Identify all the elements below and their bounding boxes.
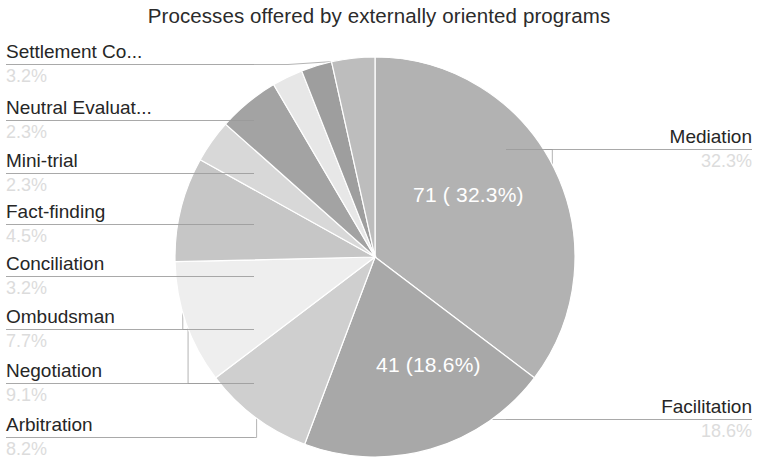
callout-category: Mediation (506, 126, 752, 148)
callout-percent: 9.1% (6, 385, 254, 406)
callout-mini-trial[interactable]: Mini-trial 2.3% (6, 150, 254, 196)
callout-rule (6, 383, 254, 384)
callout-percent: 8.2% (6, 439, 254, 460)
callout-fact-finding[interactable]: Fact-finding 4.5% (6, 201, 254, 247)
callout-facilitation[interactable]: Facilitation 18.6% (506, 396, 752, 442)
callout-percent: 18.6% (506, 421, 752, 442)
callout-percent: 4.5% (6, 226, 254, 247)
callout-percent: 3.2% (6, 278, 254, 299)
callout-neutral-evaluation[interactable]: Neutral Evaluat... 2.3% (6, 97, 254, 143)
callout-category: Fact-finding (6, 201, 254, 223)
callout-percent: 2.3% (6, 175, 254, 196)
callout-category: Negotiation (6, 360, 254, 382)
callout-conciliation[interactable]: Conciliation 3.2% (6, 253, 254, 299)
callout-rule (6, 329, 254, 330)
callout-rule (506, 419, 752, 420)
callout-percent: 2.3% (6, 122, 254, 143)
callout-percent: 7.7% (6, 331, 254, 352)
callout-category: Arbitration (6, 414, 254, 436)
callout-rule (6, 437, 254, 438)
callout-category: Neutral Evaluat... (6, 97, 254, 119)
leader-line (254, 416, 257, 438)
callout-rule (506, 149, 752, 150)
callout-percent: 3.2% (6, 66, 254, 87)
callout-category: Conciliation (6, 253, 254, 275)
callout-ombudsman[interactable]: Ombudsman 7.7% (6, 306, 254, 352)
callout-percent: 32.3% (506, 151, 752, 172)
callout-rule (6, 224, 254, 225)
callout-rule (6, 276, 254, 277)
callout-rule (6, 173, 254, 174)
chart-canvas: Processes offered by externally oriented… (0, 0, 758, 465)
callout-rule (6, 120, 254, 121)
slice-value-facilitation: 41 (18.6%) (376, 353, 481, 377)
slice-value-mediation: 71 ( 32.3%) (413, 183, 524, 207)
callout-arbitration[interactable]: Arbitration 8.2% (6, 414, 254, 460)
callout-rule (6, 64, 254, 65)
callout-mediation[interactable]: Mediation 32.3% (506, 126, 752, 172)
callout-category: Settlement Co... (6, 41, 254, 63)
callout-settlement-conference[interactable]: Settlement Co... 3.2% (6, 41, 254, 87)
callout-category: Ombudsman (6, 306, 254, 328)
callout-category: Mini-trial (6, 150, 254, 172)
callout-category: Facilitation (506, 396, 752, 418)
callout-negotiation[interactable]: Negotiation 9.1% (6, 360, 254, 406)
